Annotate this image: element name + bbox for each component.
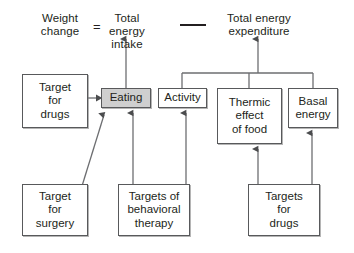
node-targets-of-behavioral-therapy[interactable]: Targets of behavioral therapy: [118, 184, 190, 236]
node-activity[interactable]: Activity: [158, 88, 207, 108]
total-energy-intake-label: Total energy intake: [96, 12, 158, 51]
minus-sign: [180, 24, 206, 26]
node-thermic-effect-of-food[interactable]: Thermic effect of food: [217, 88, 282, 144]
node-target-for-drugs-left[interactable]: Target for drugs: [22, 74, 88, 128]
node-basal-energy[interactable]: Basal energy: [288, 88, 338, 128]
energy-balance-diagram: Weight change = Total energy intake Tota…: [0, 0, 354, 253]
weight-change-label: Weight change: [32, 12, 88, 38]
node-target-for-surgery[interactable]: Target for surgery: [22, 184, 88, 236]
total-energy-expenditure-label: Total energy expenditure: [216, 12, 302, 38]
node-eating[interactable]: Eating: [101, 88, 151, 108]
node-targets-for-drugs-bottom[interactable]: Targets for drugs: [248, 184, 320, 236]
